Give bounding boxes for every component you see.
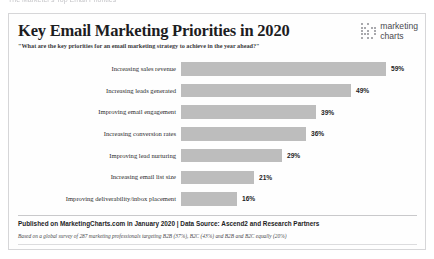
bar-track: 16% [181, 188, 417, 210]
bar-track: 59% [181, 58, 417, 80]
bar-row: Increasing conversion rates 36% [18, 123, 417, 145]
bar-fill [181, 192, 237, 206]
bar-fill [181, 149, 282, 163]
bar-value-label: 49% [356, 87, 369, 94]
clipped-top-text-value: The Marketer's Top Email Priorities [8, 0, 228, 4]
bar-row: Improving email engagement 39% [18, 101, 417, 123]
bar-row: Improving deliverability/inbox placement… [18, 188, 417, 210]
bar-value-label: 16% [242, 195, 255, 202]
bar-value-label: 29% [287, 152, 300, 159]
bar-value-label: 21% [259, 174, 272, 181]
marketingcharts-logo: marketing charts [361, 21, 418, 41]
footer-methodology-text: Based on a global survey of 287 marketin… [18, 232, 287, 240]
bar-category-label: Increasing leads generated [18, 87, 181, 95]
bar-fill [181, 84, 351, 98]
bar-value-label: 39% [321, 109, 334, 116]
logo-line-1: marketing [380, 21, 418, 31]
logo-line-2: charts [380, 31, 418, 41]
bar-category-label: Improving lead nurturing [18, 152, 181, 160]
bar-row: Increasing sales revenue 59% [18, 58, 417, 80]
bar-chart-plot: Increasing sales revenue 59% Increasing … [18, 58, 417, 210]
bar-category-label: Increasing email list size [18, 173, 181, 181]
chart-subtitle: "What are the key priorities for an emai… [18, 41, 417, 50]
bar-track: 21% [181, 166, 417, 188]
bar-row: Improving lead nurturing 29% [18, 145, 417, 167]
bar-track: 39% [181, 101, 417, 123]
bar-row: Increasing email list size 21% [18, 166, 417, 188]
chart-title: Key Email Marketing Priorities in 2020 [18, 21, 417, 40]
bar-value-label: 36% [311, 130, 324, 137]
bar-value-label: 59% [391, 65, 404, 72]
bar-track: 36% [181, 123, 417, 145]
bar-category-label: Increasing conversion rates [18, 130, 181, 138]
bar-category-label: Improving email engagement [18, 108, 181, 116]
bar-fill [181, 171, 254, 185]
chart-card: Key Email Marketing Priorities in 2020 "… [8, 13, 426, 250]
bar-fill [181, 62, 386, 76]
footer-bottom-divider [18, 244, 417, 245]
clipped-top-text: The Marketer's Top Email Priorities [8, 0, 228, 8]
bar-track: 49% [181, 80, 417, 102]
bar-category-label: Improving deliverability/inbox placement [18, 195, 181, 203]
logo-wordmark: marketing charts [380, 21, 418, 41]
bar-track: 29% [181, 145, 417, 167]
chart-header: Key Email Marketing Priorities in 2020 "… [18, 21, 417, 55]
footer-divider [18, 215, 417, 216]
bar-row: Increasing leads generated 49% [18, 80, 417, 102]
footer-published-text: Published on MarketingCharts.com in Janu… [18, 219, 319, 228]
bar-category-label: Increasing sales revenue [18, 65, 181, 73]
logo-dot-grid-icon [361, 23, 377, 39]
bar-fill [181, 127, 306, 141]
bar-fill [181, 105, 316, 119]
chart-card-inner: Key Email Marketing Priorities in 2020 "… [9, 14, 425, 249]
